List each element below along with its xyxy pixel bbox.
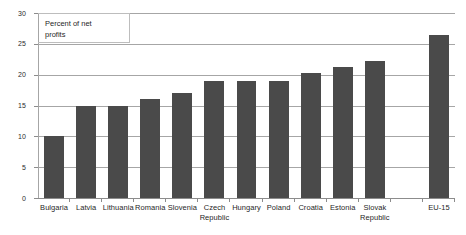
bar bbox=[429, 35, 449, 198]
x-tick-label: Bulgaria bbox=[38, 203, 70, 222]
x-tick-slot bbox=[166, 198, 198, 202]
bar-chart: 051015202530 BulgariaLatviaLithuaniaRoma… bbox=[0, 0, 466, 235]
bar bbox=[237, 81, 257, 198]
y-tick-label-0: 0 bbox=[0, 195, 26, 202]
bar bbox=[365, 61, 385, 198]
x-tick-label: Poland bbox=[263, 203, 295, 222]
x-tick-slot bbox=[230, 198, 262, 202]
x-tick-slot bbox=[70, 198, 102, 202]
bar-slot bbox=[198, 13, 230, 198]
x-tick-slot bbox=[295, 198, 327, 202]
x-tick-slot bbox=[263, 198, 295, 202]
bar bbox=[108, 106, 128, 199]
x-tick-slot bbox=[38, 198, 70, 202]
y-tick-label-15: 15 bbox=[0, 102, 26, 109]
bar bbox=[204, 81, 224, 198]
bar-slot bbox=[423, 13, 455, 198]
y-tick-label-20: 20 bbox=[0, 71, 26, 78]
x-tick-label: Latvia bbox=[70, 203, 102, 222]
y-tick-label-25: 25 bbox=[0, 40, 26, 47]
x-tick-slot bbox=[198, 198, 230, 202]
bar-slot bbox=[230, 13, 262, 198]
x-tick-label: EU-15 bbox=[423, 203, 455, 222]
x-tick-label: Romania bbox=[134, 203, 166, 222]
x-tick-slot bbox=[102, 198, 134, 202]
x-tick-label: Croatia bbox=[295, 203, 327, 222]
y-tick-label-5: 5 bbox=[0, 164, 26, 171]
x-axis-labels: BulgariaLatviaLithuaniaRomaniaSloveniaCz… bbox=[38, 203, 455, 222]
bar-slot bbox=[327, 13, 359, 198]
x-tick-slot bbox=[327, 198, 359, 202]
bar-slot bbox=[263, 13, 295, 198]
bar bbox=[140, 99, 160, 198]
bar-slot bbox=[295, 13, 327, 198]
x-tick-label bbox=[391, 203, 423, 222]
x-tick-slot bbox=[391, 198, 423, 202]
y-tick-label-10: 10 bbox=[0, 133, 26, 140]
x-tick-slot bbox=[359, 198, 391, 202]
bar-slot bbox=[359, 13, 391, 198]
x-tick-label: Czech Republic bbox=[198, 203, 230, 222]
x-tick-label: Estonia bbox=[327, 203, 359, 222]
x-tick-label: Slovak Republic bbox=[359, 203, 391, 222]
x-axis-tick-marks bbox=[38, 198, 455, 202]
x-tick-label: Lithuania bbox=[102, 203, 134, 222]
bar bbox=[269, 81, 289, 198]
y-tick-label-30: 30 bbox=[0, 10, 26, 17]
bar bbox=[172, 93, 192, 198]
x-tick-label: Hungary bbox=[230, 203, 262, 222]
y-axis-unit-note: Percent of net profits bbox=[38, 13, 130, 43]
bar bbox=[333, 67, 353, 198]
bar-slot bbox=[134, 13, 166, 198]
bar bbox=[76, 106, 96, 199]
bar-slot bbox=[391, 13, 423, 198]
x-tick-label: Slovenia bbox=[166, 203, 198, 222]
bar bbox=[301, 73, 321, 198]
bar-slot bbox=[166, 13, 198, 198]
bar bbox=[44, 136, 64, 198]
x-tick-slot bbox=[423, 198, 455, 202]
x-tick-slot bbox=[134, 198, 166, 202]
